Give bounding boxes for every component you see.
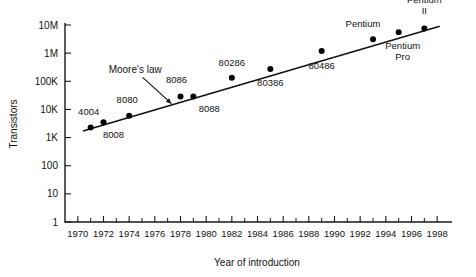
x-tick-label: 1980 bbox=[196, 228, 217, 239]
x-axis-title: Year of introduction bbox=[214, 257, 300, 268]
y-tick-label: 1M bbox=[44, 48, 58, 59]
y-axis-tick-labels: 10M1M100K10K1K100101 bbox=[35, 20, 59, 228]
data-point-label: 80286 bbox=[219, 57, 245, 68]
axes-group bbox=[65, 23, 452, 222]
data-point bbox=[370, 36, 376, 42]
x-tick-label: 1978 bbox=[170, 228, 191, 239]
x-axis-ticks bbox=[78, 216, 437, 222]
y-tick-label: 100 bbox=[41, 160, 58, 171]
x-tick-label: 1970 bbox=[67, 228, 88, 239]
data-point-label: Pentium bbox=[346, 18, 381, 29]
y-tick-label: 100K bbox=[35, 76, 59, 87]
x-tick-label: 1972 bbox=[93, 228, 114, 239]
data-point-label: 80486 bbox=[308, 60, 334, 71]
data-point-label: 80386 bbox=[257, 77, 283, 88]
x-tick-label: 1986 bbox=[273, 228, 294, 239]
data-point bbox=[267, 66, 273, 72]
data-point bbox=[319, 48, 325, 54]
x-tick-label: 1976 bbox=[144, 228, 165, 239]
y-axis-title: Transistors bbox=[8, 99, 19, 148]
y-axis-ticks bbox=[65, 25, 71, 222]
data-point-label: 8080 bbox=[117, 94, 138, 105]
axis-lines bbox=[65, 23, 452, 222]
annotation-text: Moore's law bbox=[109, 64, 163, 75]
data-point bbox=[396, 29, 402, 35]
x-tick-label: 1996 bbox=[401, 228, 422, 239]
data-point bbox=[88, 124, 94, 130]
x-tick-label: 1984 bbox=[247, 228, 268, 239]
data-point-label: PentiumPro bbox=[385, 40, 420, 62]
y-tick-label: 10 bbox=[47, 188, 59, 199]
data-point bbox=[101, 119, 107, 125]
y-tick-label: 1K bbox=[46, 132, 59, 143]
chart-canvas: 10M1M100K10K1K100101 1970197219741976197… bbox=[0, 0, 476, 277]
data-point-label: 8088 bbox=[199, 103, 220, 114]
x-tick-label: 1988 bbox=[298, 228, 319, 239]
data-point-label: 8086 bbox=[166, 74, 187, 85]
x-tick-label: 1992 bbox=[350, 228, 371, 239]
data-point bbox=[421, 26, 427, 32]
x-tick-label: 1974 bbox=[119, 228, 140, 239]
x-tick-label: 1990 bbox=[324, 228, 345, 239]
data-point bbox=[178, 93, 184, 99]
moores-law-chart: 10M1M100K10K1K100101 1970197219741976197… bbox=[0, 0, 476, 277]
x-axis-tick-labels: 1970197219741976197819801982198419861988… bbox=[67, 228, 447, 239]
x-tick-label: 1994 bbox=[375, 228, 396, 239]
y-tick-label: 1 bbox=[52, 217, 58, 228]
y-tick-label: 10K bbox=[40, 104, 58, 115]
x-tick-label: 1982 bbox=[221, 228, 242, 239]
data-point-label: 8008 bbox=[103, 129, 124, 140]
data-point-label: 4004 bbox=[78, 106, 99, 117]
x-tick-label: 1998 bbox=[427, 228, 448, 239]
y-tick-label: 10M bbox=[39, 20, 58, 31]
data-point-label: PentiumII bbox=[407, 0, 442, 16]
data-point bbox=[190, 93, 196, 99]
data-point bbox=[229, 75, 235, 81]
data-point bbox=[126, 113, 132, 119]
